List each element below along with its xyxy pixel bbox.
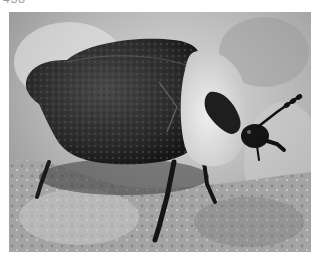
beetle-photo [9, 12, 311, 252]
beetle-head [241, 124, 269, 148]
beetle-photo-graphic [9, 12, 311, 252]
image-caption: 438 [3, 0, 26, 5]
